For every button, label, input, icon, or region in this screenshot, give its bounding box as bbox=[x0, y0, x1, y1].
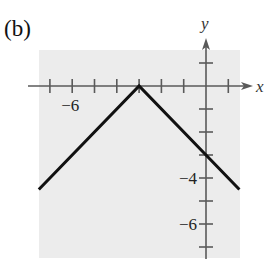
absolute-value-graph: (b) −6−4−6 x y bbox=[0, 0, 266, 273]
y-tick-label: −6 bbox=[179, 215, 197, 234]
x-axis-label: x bbox=[255, 77, 264, 96]
y-tick-label: −4 bbox=[179, 169, 198, 188]
x-tick-label: −6 bbox=[61, 96, 79, 115]
y-axis-label: y bbox=[199, 14, 209, 33]
panel-label: (b) bbox=[4, 16, 31, 41]
